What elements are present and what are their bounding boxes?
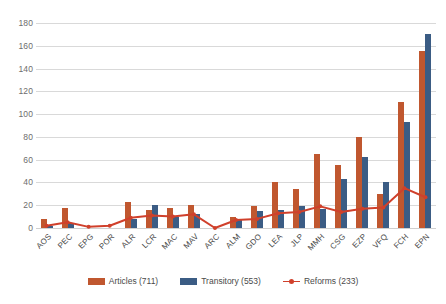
x-tick-por: POR [99, 228, 120, 270]
x-tick-alr: ALR [120, 228, 141, 270]
bar-swatch-orange-icon [88, 278, 105, 285]
reforms-point-epn [423, 195, 427, 199]
plot-area [36, 23, 436, 228]
x-tick-mmh: MMH [310, 228, 331, 270]
x-tick-label-fch: FCH [392, 232, 410, 250]
legend-label: Reforms (233) [304, 276, 358, 286]
y-tick-label-180: 180 [3, 18, 33, 28]
bar-swatch-blue-icon [180, 278, 197, 285]
reforms-point-mmh [318, 204, 322, 208]
x-tick-label-csg: CSG [328, 232, 347, 251]
x-tick-epg: EPG [78, 228, 99, 270]
reforms-point-ezp [360, 207, 364, 211]
y-tick-label-140: 140 [3, 64, 33, 74]
x-tick-label-aos: AOS [34, 232, 53, 251]
x-tick-aos: AOS [36, 228, 57, 270]
x-tick-label-ezp: EZP [351, 232, 369, 250]
reforms-point-fch [402, 186, 406, 190]
y-tick-label-100: 100 [3, 109, 33, 119]
reforms-point-mac [171, 215, 175, 219]
y-tick-label-120: 120 [3, 86, 33, 96]
x-tick-label-alm: ALM [224, 232, 242, 250]
reforms-point-gdo [255, 217, 259, 221]
x-tick-label-epg: EPG [76, 232, 95, 251]
y-tick-label-80: 80 [3, 132, 33, 142]
x-tick-csg: CSG [331, 228, 352, 270]
x-tick-arc: ARC [204, 228, 225, 270]
x-tick-gdo: GDO [246, 228, 267, 270]
x-tick-label-mac: MAC [160, 232, 179, 251]
x-tick-label-alr: ALR [119, 232, 137, 250]
x-tick-label-por: POR [97, 232, 116, 251]
legend-label: Articles (711) [109, 276, 158, 286]
reforms-point-mav [192, 212, 196, 216]
reforms-point-lcr [150, 213, 154, 217]
x-tick-label-jlp: JLP [289, 232, 306, 249]
x-tick-pec: PEC [57, 228, 78, 270]
legend-item-1[interactable]: Articles (711) [88, 276, 158, 286]
x-tick-lcr: LCR [141, 228, 162, 270]
y-tick-label-40: 40 [3, 177, 33, 187]
x-tick-label-arc: ARC [203, 232, 222, 251]
x-tick-label-mmh: MMH [306, 232, 326, 252]
y-tick-label-160: 160 [3, 41, 33, 51]
reforms-point-jlp [297, 210, 301, 214]
chart-legend: Articles (711)Transitory (553)Reforms (2… [0, 276, 446, 286]
x-tick-label-vfq: VFQ [371, 232, 389, 250]
x-tick-mav: MAV [183, 228, 204, 270]
y-axis: 020406080100120140160180 [0, 23, 33, 228]
x-tick-label-lcr: LCR [140, 232, 158, 250]
chart-container: 020406080100120140160180 AOSPECEPGPORALR… [0, 0, 446, 304]
reforms-point-lea [276, 211, 280, 215]
y-tick-label-60: 60 [3, 155, 33, 165]
line-marker-red-icon [283, 278, 300, 285]
reforms-line-series [36, 23, 436, 228]
x-tick-jlp: JLP [289, 228, 310, 270]
x-tick-epn: EPN [415, 228, 436, 270]
x-tick-lea: LEA [268, 228, 289, 270]
x-tick-label-epn: EPN [413, 232, 431, 250]
reforms-point-csg [339, 210, 343, 214]
x-tick-vfq: VFQ [373, 228, 394, 270]
legend-item-2[interactable]: Transitory (553) [180, 276, 261, 286]
reforms-point-vfq [381, 206, 385, 210]
x-tick-label-mav: MAV [182, 232, 201, 251]
reforms-point-pec [66, 220, 70, 224]
x-tick-label-gdo: GDO [244, 232, 264, 252]
x-axis: AOSPECEPGPORALRLCRMACMAVARCALMGDOLEAJLPM… [36, 228, 436, 270]
reforms-point-alr [129, 216, 133, 220]
x-tick-label-lea: LEA [267, 232, 284, 249]
y-tick-label-20: 20 [3, 200, 33, 210]
x-tick-alm: ALM [225, 228, 246, 270]
x-tick-mac: MAC [162, 228, 183, 270]
legend-label: Transitory (553) [201, 276, 261, 286]
y-tick-label-0: 0 [3, 223, 33, 233]
x-tick-ezp: EZP [352, 228, 373, 270]
reforms-point-alm [234, 218, 238, 222]
x-tick-label-pec: PEC [55, 232, 73, 250]
legend-item-3[interactable]: Reforms (233) [283, 276, 358, 286]
x-tick-fch: FCH [394, 228, 415, 270]
